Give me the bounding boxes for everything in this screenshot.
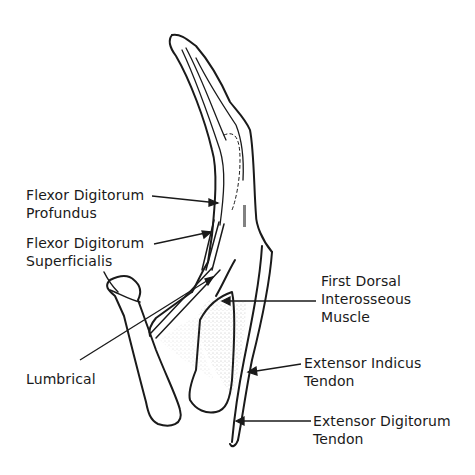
label-line: Superficialis: [26, 252, 144, 270]
label-line: Flexor Digitorum: [26, 234, 144, 252]
label-line: Muscle: [321, 308, 411, 326]
label-line: First Dorsal: [321, 272, 411, 290]
finger-outline: [170, 35, 216, 262]
label-extensor-indicus-tendon: Extensor Indicus Tendon: [304, 354, 421, 390]
label-flexor-digitorum-superficialis: Flexor Digitorum Superficialis: [26, 234, 144, 270]
label-lumbrical: Lumbrical: [26, 370, 96, 388]
label-line: Flexor Digitorum: [26, 186, 144, 204]
label-line: Interosseous: [321, 290, 411, 308]
label-line: Tendon: [304, 372, 421, 390]
leader-fds: [154, 232, 210, 244]
label-line: Tendon: [313, 430, 451, 448]
label-flexor-digitorum-profundus: Flexor Digitorum Profundus: [26, 186, 144, 222]
leader-eit: [250, 364, 301, 372]
metacarpal-bone: [107, 276, 181, 425]
label-line: Extensor Digitorum: [313, 412, 451, 430]
label-line: Lumbrical: [26, 370, 96, 388]
label-line: Extensor Indicus: [304, 354, 421, 372]
label-first-dorsal-interosseous: First Dorsal Interosseous Muscle: [321, 272, 411, 326]
label-extensor-digitorum-tendon: Extensor Digitorum Tendon: [313, 412, 451, 448]
leader-fdp: [152, 196, 218, 203]
label-line: Profundus: [26, 204, 144, 222]
anatomy-diagram: Flexor Digitorum Profundus Flexor Digito…: [0, 0, 475, 475]
